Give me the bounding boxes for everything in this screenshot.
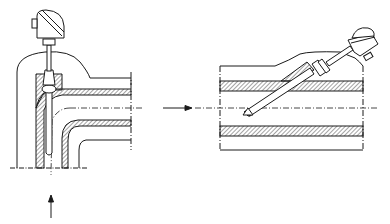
elbow-housing-outline [17,52,131,168]
inner-elbow-outline [79,140,131,168]
pipe-wall-bottom [220,126,363,136]
head-dome [352,28,374,38]
right-view-straight-pipe [195,28,378,150]
fitting-nut [43,70,55,85]
thermowell-stem [46,92,52,155]
flow-arrow-up [49,195,54,218]
angled-cable-gland [364,52,373,60]
flow-arrow-right [163,106,192,111]
left-view-elbow [10,10,143,175]
thermowell-collar [42,85,56,93]
head-base [43,39,55,45]
angled-thermowell [244,68,314,116]
technical-drawing [0,0,390,224]
cable-gland [32,19,37,28]
thermometer-neck [47,45,51,71]
inner-wall-elbow [62,120,131,168]
